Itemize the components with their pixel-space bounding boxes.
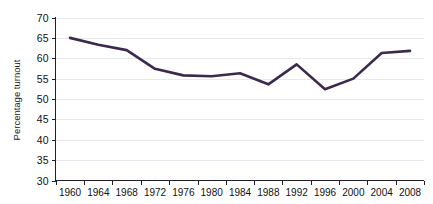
x-tick-label: 1976 [172,187,195,198]
chart-background [0,0,433,204]
y-axis-title: Percentage turnout [11,59,22,140]
x-tick-label: 1972 [144,187,167,198]
x-tick-label: 1996 [314,187,337,198]
x-tick-label: 1984 [229,187,252,198]
line-chart: 706560555045403530 196019641968197219761… [0,0,433,204]
y-tick-label: 45 [37,113,49,125]
y-tick-label: 65 [37,32,49,44]
x-tick-label: 1960 [59,187,82,198]
x-tick-label: 2000 [342,187,365,198]
y-tick-label: 50 [37,93,49,105]
y-tick-label: 35 [37,154,49,166]
y-tick-label: 55 [37,73,49,85]
y-axis-tick-labels: 706560555045403530 [37,12,49,187]
chart-container: 706560555045403530 196019641968197219761… [0,0,433,204]
x-tick-label: 1964 [87,187,110,198]
y-tick-label: 70 [37,12,49,24]
x-tick-label: 2008 [399,187,422,198]
x-tick-label: 1980 [201,187,224,198]
x-tick-label: 2004 [371,187,394,198]
y-tick-label: 40 [37,134,49,146]
y-tick-label: 30 [37,175,49,187]
y-tick-label: 60 [37,52,49,64]
x-tick-label: 1968 [116,187,139,198]
x-tick-label: 1992 [286,187,309,198]
x-tick-label: 1988 [257,187,280,198]
